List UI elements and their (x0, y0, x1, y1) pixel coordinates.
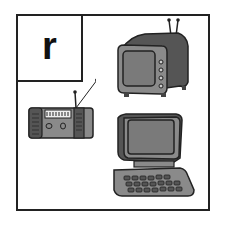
letter-box: r (16, 14, 83, 82)
letter-label: r (42, 27, 57, 65)
radio-icon (26, 78, 96, 140)
computer-icon (110, 112, 200, 202)
television-icon (110, 14, 190, 99)
